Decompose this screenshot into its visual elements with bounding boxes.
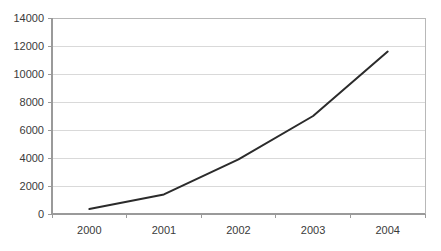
y-tick-label: 4000	[20, 152, 44, 164]
y-tick-label: 2000	[20, 180, 44, 192]
y-axis-ticks: 02000400060008000100001200014000	[13, 12, 52, 220]
y-tick-label: 12000	[13, 40, 44, 52]
plot-background	[52, 18, 425, 214]
y-tick-label: 0	[38, 208, 44, 220]
y-tick-label: 10000	[13, 68, 44, 80]
y-tick-label: 14000	[13, 12, 44, 24]
y-tick-label: 8000	[20, 96, 44, 108]
y-tick-label: 6000	[20, 124, 44, 136]
x-axis-labels: 20002001200220032004	[77, 224, 400, 236]
x-tick-label: 2001	[152, 224, 176, 236]
x-tick-label: 2000	[77, 224, 101, 236]
chart-canvas: 02000400060008000100001200014000 2000200…	[0, 0, 441, 251]
line-chart-figure: 02000400060008000100001200014000 2000200…	[0, 0, 441, 251]
x-axis-ticks	[52, 214, 425, 218]
x-tick-label: 2002	[226, 224, 250, 236]
x-tick-label: 2004	[375, 224, 399, 236]
x-tick-label: 2003	[301, 224, 325, 236]
